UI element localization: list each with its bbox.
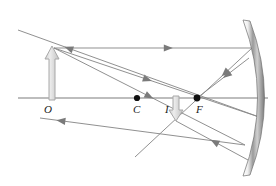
incident-through-center-ray	[54, 48, 262, 118]
center-of-curvature-dot	[134, 95, 140, 101]
object-arrow	[45, 46, 59, 100]
reflected-parallel-ray-arrowhead	[56, 118, 65, 125]
incident-through-focus-ray-arrowhead	[144, 91, 154, 98]
object-point-label: O	[44, 104, 52, 115]
reflected-ray-lower-mirror-to-image-arrowhead	[211, 140, 221, 147]
ray-diagram-canvas	[0, 0, 276, 186]
reflected-through-focus-ray	[135, 48, 252, 157]
image-arrow	[169, 96, 183, 121]
incident-parallel-ray-arrowhead	[164, 44, 173, 51]
focal-point-label: F	[196, 104, 203, 115]
center-of-curvature-label: C	[133, 104, 140, 115]
ray-diagram: O C I F	[0, 0, 276, 186]
focal-point-dot	[194, 95, 201, 102]
image-point-label: I	[165, 104, 169, 115]
